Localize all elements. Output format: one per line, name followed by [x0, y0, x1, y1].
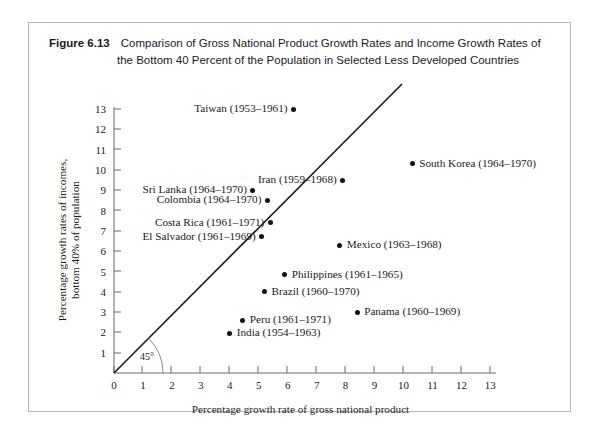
x-tick-label: 0: [104, 380, 124, 391]
data-point-label: Mexico (1963–1968): [347, 240, 442, 251]
x-tick-label: 4: [220, 380, 240, 391]
x-tick-label: 1: [133, 380, 153, 391]
data-point: [337, 243, 342, 248]
x-tick-label: 12: [451, 380, 471, 391]
data-point: [355, 310, 360, 315]
x-tick-label: 2: [162, 380, 182, 391]
x-tick-label: 5: [249, 380, 269, 391]
data-point: [291, 107, 296, 112]
y-tick-label: 1: [84, 348, 106, 359]
y-tick-label: 6: [84, 246, 106, 257]
x-tick-label: 10: [394, 380, 414, 391]
data-point-label: South Korea (1964–1970): [419, 158, 536, 169]
y-tick-label: 13: [84, 104, 106, 115]
x-tick-label: 11: [422, 380, 442, 391]
data-point-label: Peru (1961–1971): [250, 315, 331, 326]
x-axis-ticks: [114, 366, 490, 373]
data-point: [265, 198, 270, 203]
data-point-label: El Salvador (1961–1969): [143, 231, 256, 242]
y-tick-label: 7: [84, 226, 106, 237]
y-tick-label: 12: [84, 124, 106, 135]
data-point-label: Taiwan (1953–1961): [194, 103, 287, 114]
y-tick-label: 11: [84, 145, 106, 156]
x-axis-title: Percentage growth rate of gross national…: [29, 403, 572, 415]
y-tick-label: 3: [84, 307, 106, 318]
y-axis-title: Percentage growth rates of incomes,botto…: [56, 105, 82, 375]
figure-frame: Figure 6.13 Comparison of Gross National…: [28, 22, 571, 412]
x-tick-label: 3: [191, 380, 211, 391]
angle-label: 45°: [140, 352, 154, 362]
data-point-label: India (1954–1963): [237, 328, 321, 339]
x-tick-label: 13: [480, 380, 500, 391]
scatter-plot: 12345678910111213 012345678910111213 Tai…: [29, 23, 572, 413]
plot-canvas: [29, 23, 572, 413]
y-tick-label: 4: [84, 287, 106, 298]
data-point-label: Colombia (1964–1970): [157, 195, 262, 206]
y-tick-label: 2: [84, 327, 106, 338]
x-tick-label: 9: [365, 380, 385, 391]
y-tick-label: 9: [84, 185, 106, 196]
data-point-label: Costa Rica (1961–1971): [155, 217, 264, 228]
data-point-label: Iran (1959–1968): [258, 175, 337, 186]
y-tick-label: 10: [84, 165, 106, 176]
x-tick-label: 7: [307, 380, 327, 391]
y-axis-ticks: [114, 109, 121, 353]
data-point-label: Panama (1960–1969): [364, 306, 460, 317]
x-tick-label: 6: [278, 380, 298, 391]
data-point: [340, 178, 345, 183]
data-point-label: Brazil (1960–1970): [272, 286, 360, 297]
x-tick-label: 8: [336, 380, 356, 391]
y-tick-label: 5: [84, 267, 106, 278]
data-point-label: Philippines (1961–1965): [292, 269, 403, 280]
y-tick-label: 8: [84, 206, 106, 217]
